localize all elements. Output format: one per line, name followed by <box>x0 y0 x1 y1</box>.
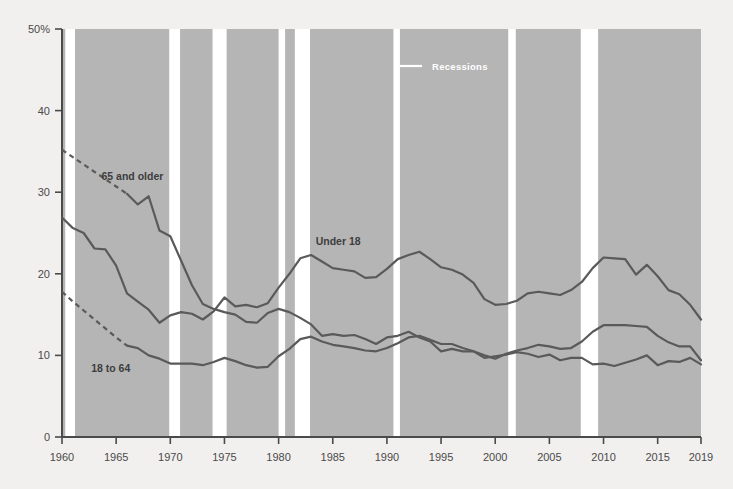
x-tick-label: 1995 <box>429 451 453 463</box>
x-tick-label: 1990 <box>375 451 399 463</box>
x-tick-label: 1985 <box>321 451 345 463</box>
x-tick-label: 1970 <box>158 451 182 463</box>
recession-band <box>295 29 310 437</box>
series-label: 18 to 64 <box>91 362 130 374</box>
x-tick-label: 1960 <box>50 451 74 463</box>
recession-band <box>213 29 227 437</box>
y-tick-label: 10 <box>38 349 50 361</box>
series-label: 65 and older <box>101 170 163 182</box>
y-tick-label: 50% <box>28 23 50 35</box>
recession-band <box>65 29 75 437</box>
y-tick-label: 40 <box>38 105 50 117</box>
legend-label-recessions: Recessions <box>432 61 488 72</box>
plot-area-fill <box>62 29 701 437</box>
x-tick-label: 2010 <box>591 451 615 463</box>
line-chart: 01020304050%1960196519701975198019851990… <box>0 0 733 489</box>
recession-band <box>169 29 180 437</box>
y-tick-label: 20 <box>38 268 50 280</box>
x-tick-label: 2005 <box>537 451 561 463</box>
series-label: Under 18 <box>316 235 361 247</box>
x-tick-label: 2000 <box>483 451 507 463</box>
recession-band <box>393 29 399 437</box>
recession-band <box>279 29 285 437</box>
x-tick-label: 2019 <box>689 451 713 463</box>
x-tick-label: 1980 <box>266 451 290 463</box>
recession-bands-group <box>62 29 701 437</box>
x-tick-label: 2015 <box>645 451 669 463</box>
recession-band <box>581 29 598 437</box>
y-tick-label: 30 <box>38 186 50 198</box>
x-tick-label: 1965 <box>104 451 128 463</box>
x-tick-label: 1975 <box>212 451 236 463</box>
recession-band <box>508 29 516 437</box>
y-tick-label: 0 <box>44 431 50 443</box>
chart-container: 01020304050%1960196519701975198019851990… <box>0 0 733 489</box>
